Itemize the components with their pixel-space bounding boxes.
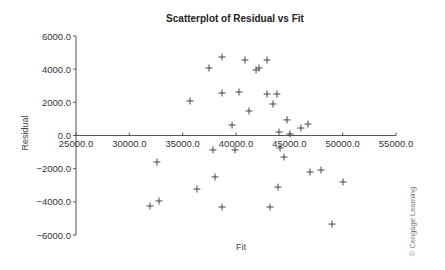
- plus-marker-icon: [219, 90, 226, 97]
- plus-marker-icon: [264, 57, 271, 64]
- y-tick-label: 4000.0: [42, 64, 71, 75]
- plus-marker-icon: [229, 122, 236, 129]
- plus-marker-icon: [339, 178, 346, 185]
- plus-marker-icon: [307, 168, 314, 175]
- plus-marker-icon: [267, 203, 274, 210]
- plus-marker-icon: [219, 203, 226, 210]
- y-axis-label: Residual: [20, 103, 30, 163]
- plus-marker-icon: [193, 186, 200, 193]
- plus-marker-icon: [235, 89, 242, 96]
- plus-marker-icon: [281, 154, 288, 161]
- x-tick-label: 25000.0: [59, 138, 93, 149]
- y-tick-label: −4000.0: [36, 196, 71, 207]
- scatter-plot: 6000.04000.02000.00.0−2000.0−4000.0−6000…: [0, 0, 445, 270]
- plus-marker-icon: [155, 198, 162, 205]
- plus-marker-icon: [241, 57, 248, 64]
- plus-marker-icon: [219, 54, 226, 61]
- axes: 6000.04000.02000.00.0−2000.0−4000.0−6000…: [36, 31, 413, 241]
- x-tick-label: 55000.0: [379, 138, 413, 149]
- x-tick-label: 35000.0: [165, 138, 199, 149]
- chart-title: Scatterplot of Residual vs Fit: [0, 13, 445, 24]
- x-axis-label: Fit: [216, 242, 266, 252]
- plus-marker-icon: [329, 221, 336, 228]
- copyright-credit: © Cengage Learning: [408, 182, 417, 262]
- plus-marker-icon: [270, 100, 277, 107]
- plus-marker-icon: [283, 116, 290, 123]
- y-tick-label: −6000.0: [36, 230, 71, 241]
- y-tick-label: 6000.0: [42, 31, 71, 42]
- plus-marker-icon: [246, 107, 253, 114]
- plus-marker-icon: [187, 98, 194, 105]
- plus-marker-icon: [318, 166, 325, 173]
- plus-marker-icon: [286, 131, 293, 138]
- plus-marker-icon: [206, 65, 213, 72]
- plus-marker-icon: [147, 202, 154, 209]
- plus-marker-icon: [209, 146, 216, 153]
- plus-marker-icon: [305, 121, 312, 128]
- x-tick-label: 30000.0: [112, 138, 146, 149]
- plus-marker-icon: [275, 184, 282, 191]
- plus-marker-icon: [273, 91, 280, 98]
- x-tick-label: 45000.0: [272, 138, 306, 149]
- plus-marker-icon: [275, 129, 282, 136]
- x-tick-label: 50000.0: [325, 138, 359, 149]
- plus-marker-icon: [211, 173, 218, 180]
- y-tick-label: 2000.0: [42, 97, 71, 108]
- y-tick-label: −2000.0: [36, 163, 71, 174]
- plus-marker-icon: [297, 125, 304, 132]
- plus-marker-icon: [264, 91, 271, 98]
- plus-marker-icon: [153, 159, 160, 166]
- x-tick-label: 40000.0: [219, 138, 253, 149]
